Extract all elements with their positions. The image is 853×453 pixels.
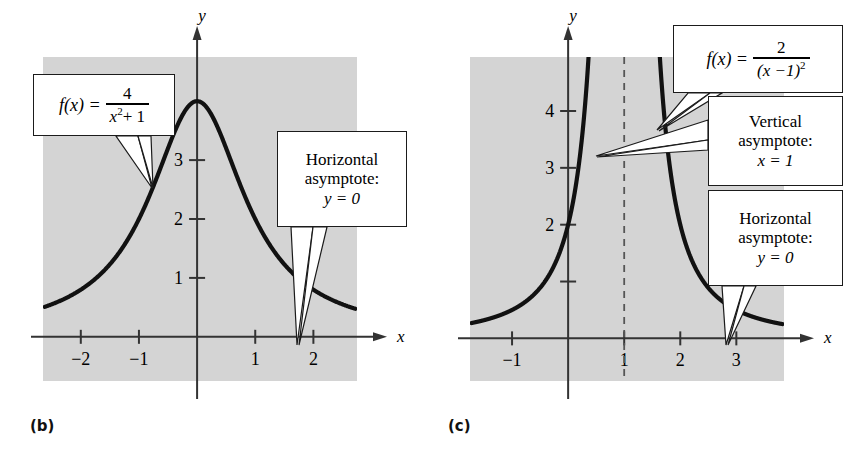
horizontal-asymptote-callout-c: Horizontal asymptote: y = 0 <box>708 190 843 286</box>
callout-line-2: asymptote: <box>738 131 813 150</box>
panel-label-c: (c) <box>448 417 471 435</box>
horizontal-asymptote-callout-b: Horizontal asymptote: y = 0 <box>277 131 407 227</box>
panel-c: xy−1123234 f(x) = 2 (x −1)2 Vertical asy… <box>426 0 853 453</box>
callout-line-2: asymptote: <box>305 169 380 188</box>
callout-line-1: Horizontal <box>739 209 812 228</box>
x-axis-label: x <box>396 327 405 346</box>
y-tick-label: 3 <box>174 150 183 170</box>
callout-line-3: y = 0 <box>757 248 793 267</box>
fraction-numerator: 4 <box>116 85 139 104</box>
y-axis-label: y <box>567 6 577 25</box>
x-tick-label: 1 <box>251 349 260 369</box>
formula-callout-b: f(x) = 4 x2+ 1 <box>33 74 175 136</box>
x-tick-label: −2 <box>71 349 90 369</box>
vertical-asymptote-callout-c: Vertical asymptote: x = 1 <box>708 96 843 186</box>
panel-b: xy−2−112123 f(x) = 4 x2+ 1 Horizontal as… <box>0 0 427 453</box>
formula-lhs: f(x) = <box>59 95 101 115</box>
fraction: 4 x2+ 1 <box>106 85 149 126</box>
denominator-exponent: 2 <box>800 59 806 71</box>
fraction: 2 (x −1)2 <box>753 39 810 80</box>
denominator-rest: + 1 <box>123 107 145 126</box>
x-tick-label: 3 <box>732 350 741 370</box>
formula-c: f(x) = 2 (x −1)2 <box>674 26 842 92</box>
formula-callout-c: f(x) = 2 (x −1)2 <box>673 25 843 93</box>
y-tick-label: 4 <box>545 101 554 121</box>
y-tick-label: 2 <box>545 215 554 235</box>
y-tick-label: 1 <box>174 268 183 288</box>
y-tick-label: 2 <box>174 209 183 229</box>
formula-lhs: f(x) = <box>706 49 748 69</box>
callout-text: Vertical asymptote: x = 1 <box>709 97 842 185</box>
y-tick-label: 3 <box>545 158 554 178</box>
panel-label-b: (b) <box>30 417 54 435</box>
x-tick-label: 2 <box>676 350 685 370</box>
fraction-numerator: 2 <box>770 39 793 58</box>
y-axis-arrow <box>193 26 202 40</box>
x-tick-label: −1 <box>502 350 521 370</box>
x-axis-label: x <box>823 328 832 347</box>
x-tick-label: 2 <box>309 349 318 369</box>
callout-line-3: y = 0 <box>324 189 360 208</box>
x-axis-arrow <box>373 332 387 341</box>
fraction-denominator: (x −1)2 <box>753 59 810 80</box>
callout-text: Horizontal asymptote: y = 0 <box>709 191 842 285</box>
callout-line-1: Horizontal <box>306 150 379 169</box>
x-tick-label: −1 <box>129 349 148 369</box>
y-axis-label: y <box>196 6 206 25</box>
callout-line-2: asymptote: <box>738 228 813 247</box>
fraction-denominator: x2+ 1 <box>106 105 149 126</box>
callout-text: Horizontal asymptote: y = 0 <box>278 132 406 226</box>
x-axis-arrow <box>800 334 814 343</box>
callout-line-1: Vertical <box>749 112 802 131</box>
y-axis-arrow <box>564 26 573 40</box>
figure-container: xy−2−112123 f(x) = 4 x2+ 1 Horizontal as… <box>0 0 853 453</box>
callout-line-3: x = 1 <box>757 151 793 170</box>
formula-b: f(x) = 4 x2+ 1 <box>34 75 174 135</box>
denominator-base: (x −1) <box>757 61 800 80</box>
